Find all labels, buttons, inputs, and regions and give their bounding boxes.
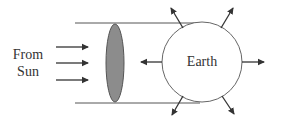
cross-section-disk bbox=[106, 24, 124, 102]
incoming-arrows bbox=[56, 47, 88, 80]
from-sun-label: From Sun bbox=[6, 46, 50, 80]
label-line-1: From bbox=[6, 46, 50, 63]
label-line-2: Sun bbox=[6, 63, 50, 80]
earth-label: Earth bbox=[172, 53, 232, 70]
